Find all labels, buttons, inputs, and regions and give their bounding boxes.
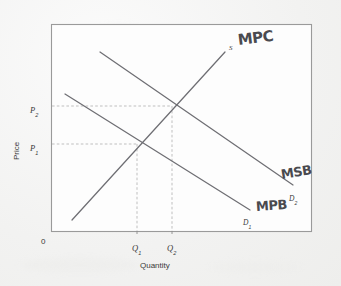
demand-d1-label: D1 [243,212,251,230]
origin-label: 0 [41,238,45,246]
annotation-mpb: MPB [256,198,288,213]
x-tick-q2: Q2 [167,238,176,257]
supply-curve-label: S [229,45,233,52]
annotation-mpc: MPC [237,29,274,48]
x-axis-title: Quantity [140,262,170,270]
demand-d2-subscript: 2 [294,200,297,206]
x-tick-q1-subscript: 1 [138,250,141,256]
y-tick-p2-subscript: 2 [35,112,38,118]
demand-d1-subscript: 1 [248,224,251,230]
demand-d2-label: D2 [289,188,297,206]
x-tick-q1: Q1 [132,238,141,257]
y-tick-p1-subscript: 1 [35,150,38,156]
x-tick-q2-subscript: 2 [173,250,176,256]
y-tick-p1: P1 [30,138,38,157]
y-axis-title: Price [13,142,21,160]
y-tick-p2: P2 [30,100,38,119]
